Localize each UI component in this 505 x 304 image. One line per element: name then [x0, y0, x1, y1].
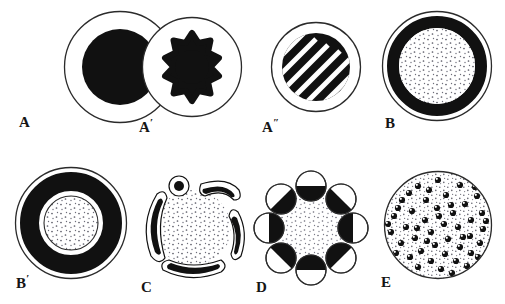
panel-D-satellite-bottom	[296, 255, 326, 285]
panel-A-double-prime-label-text: A	[262, 119, 273, 135]
panel-A-double-prime-label-prime: ″	[273, 116, 279, 128]
panel-C-plaque-dot	[169, 176, 189, 196]
panel-E-label-text: E	[381, 274, 391, 290]
figure-panel-grid: A A′	[0, 0, 505, 304]
panel-B	[381, 10, 493, 122]
panel-B-prime-label-text: B	[16, 275, 26, 291]
panel-C	[135, 170, 251, 286]
panel-A-label: A	[19, 112, 30, 130]
panel-D-satellite-right	[338, 213, 368, 243]
panel-A-prime-label-prime: ′	[150, 116, 153, 128]
panel-D-label-text: D	[256, 279, 267, 295]
panel-C-label-text: C	[141, 279, 152, 295]
panel-C-stippled-core	[155, 190, 231, 266]
panel-D-label: D	[256, 277, 267, 295]
panel-D-satellite-top	[296, 171, 326, 201]
panel-A-prime	[141, 16, 243, 118]
panel-C-plaque-right	[229, 210, 244, 260]
panel-B-label-text: B	[385, 115, 395, 131]
panel-A-prime-label: A′	[139, 117, 153, 135]
panel-A-double-prime	[270, 21, 362, 113]
panel-B-prime	[14, 166, 128, 280]
panel-B-prime-stippled-core	[44, 196, 98, 250]
panel-D	[253, 170, 369, 286]
panel-C-label: C	[141, 277, 152, 295]
panel-A-label-text: A	[19, 114, 30, 130]
panel-E	[382, 169, 494, 281]
panel-E-label: E	[381, 272, 391, 290]
panel-B-prime-label: B′	[16, 273, 29, 291]
panel-A-prime-label-text: A	[139, 119, 150, 135]
panel-A-prime-core-hub	[175, 50, 209, 84]
panel-D-satellite-left	[254, 213, 284, 243]
panel-B-label: B	[385, 113, 395, 131]
panel-A-double-prime-label: A″	[262, 117, 279, 135]
panel-B-prime-label-prime: ′	[26, 272, 29, 284]
panel-B-stippled-core	[399, 28, 475, 104]
